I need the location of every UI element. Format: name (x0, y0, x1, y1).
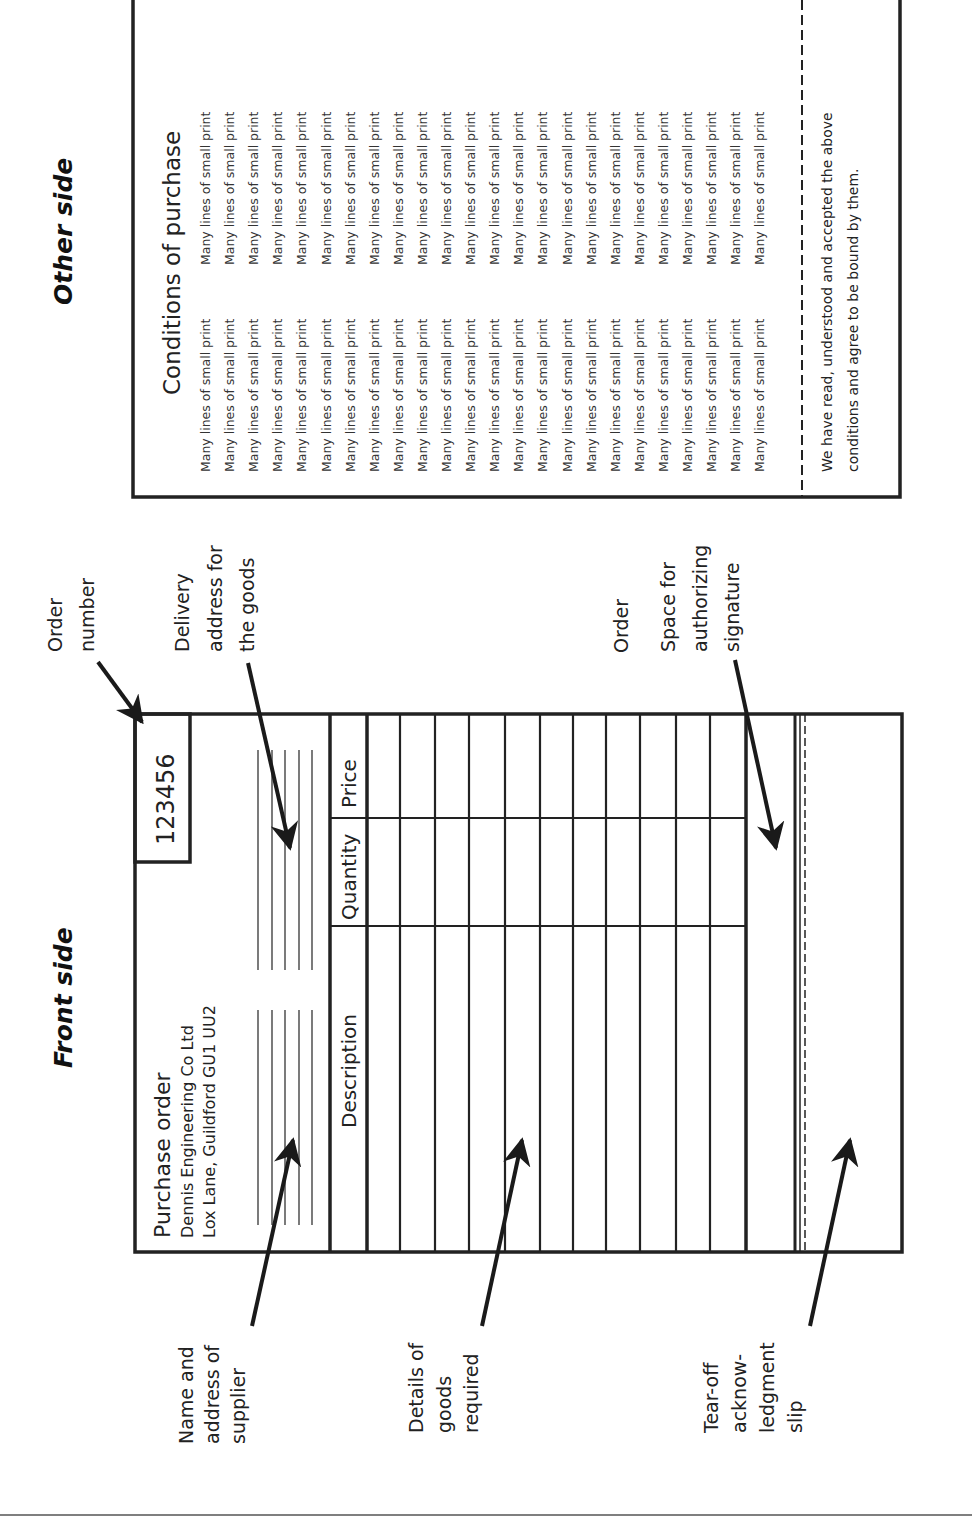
callout-delivery-3: the goods (236, 558, 258, 653)
acceptance-line-2: conditions and agree to be bound by them… (845, 168, 861, 472)
small-print-line: Many lines of small print (343, 318, 358, 472)
callout-supplier-3: supplier (227, 1368, 249, 1444)
svg-text:Order: Order (610, 599, 632, 653)
column-header-quantity: Quantity (337, 833, 361, 920)
small-print-line: Many lines of small print (294, 318, 309, 472)
front-side-form: 123456 Purchase order Dennis Engineering… (135, 714, 902, 1252)
small-print-line: Many lines of small print (704, 111, 719, 265)
small-print-line: Many lines of small print (584, 318, 599, 472)
small-print-block: Many lines of small printMany lines of s… (198, 111, 767, 472)
small-print-line: Many lines of small print (415, 111, 430, 265)
callout-goods-2: goods (433, 1376, 455, 1433)
small-print-line: Many lines of small print (487, 318, 502, 472)
supplier-address: Lox Lane, Guildford GU1 UU2 (200, 1005, 219, 1238)
arrow-order-number (98, 662, 142, 722)
small-print-line: Many lines of small print (728, 318, 743, 472)
column-header-description: Description (337, 1014, 361, 1128)
conditions-heading: Conditions of purchase (159, 131, 185, 395)
callout-delivery-2: address for (204, 545, 226, 652)
small-print-line: Many lines of small print (270, 318, 285, 472)
small-print-line: Many lines of small print (535, 111, 550, 265)
small-print-line: Many lines of small print (656, 318, 671, 472)
small-print-line: Many lines of small print (198, 111, 213, 265)
small-print-line: Many lines of small print (608, 318, 623, 472)
callout-order-number: Order (610, 599, 632, 653)
small-print-line: Many lines of small print (656, 111, 671, 265)
table-rows (400, 714, 710, 1252)
small-print-line: Many lines of small print (608, 111, 623, 265)
small-print-line: Many lines of small print (246, 318, 261, 472)
callout-goods-1: Details of (405, 1341, 427, 1433)
small-print-line: Many lines of small print (704, 318, 719, 472)
small-print-line: Many lines of small print (560, 318, 575, 472)
arrow-signature (735, 660, 776, 848)
small-print-line: Many lines of small print (632, 111, 647, 265)
other-side-form: Conditions of purchase Many lines of sma… (133, 0, 900, 497)
callout-tearoff-4: slip (784, 1400, 806, 1433)
supplier-name: Dennis Engineering Co Ltd (178, 1025, 197, 1238)
callout-tearoff-1: Tear-off (700, 1362, 722, 1434)
purchase-order-diagram: Front side Other side 123456 Purchase or… (0, 0, 972, 1532)
small-print-line: Many lines of small print (728, 111, 743, 265)
callout-goods-3: required (460, 1353, 482, 1433)
small-print-line: Many lines of small print (367, 318, 382, 472)
small-print-line: Many lines of small print (222, 111, 237, 265)
callout-tearoff-2: acknow- (728, 1354, 750, 1433)
arrow-goods (482, 1140, 522, 1326)
small-print-line: Many lines of small print (198, 318, 213, 472)
small-print-line: Many lines of small print (294, 111, 309, 265)
arrow-tearoff (810, 1140, 850, 1326)
small-print-line: Many lines of small print (270, 111, 285, 265)
small-print-line: Many lines of small print (367, 111, 382, 265)
small-print-line: Many lines of small print (415, 318, 430, 472)
form-heading: Purchase order (150, 1071, 175, 1238)
small-print-line: Many lines of small print (752, 111, 767, 265)
callout-supplier-1: Name and (175, 1346, 197, 1444)
small-print-line: Many lines of small print (319, 111, 334, 265)
small-print-line: Many lines of small print (752, 318, 767, 472)
small-print-line: Many lines of small print (463, 318, 478, 472)
other-side-title: Other side (49, 158, 78, 305)
small-print-line: Many lines of small print (632, 318, 647, 472)
column-header-price: Price (337, 759, 361, 808)
small-print-line: Many lines of small print (391, 318, 406, 472)
small-print-line: Many lines of small print (439, 318, 454, 472)
acceptance-line-1: We have read, understood and accepted th… (819, 112, 835, 472)
small-print-line: Many lines of small print (343, 111, 358, 265)
small-print-line: Many lines of small print (511, 318, 526, 472)
small-print-line: Many lines of small print (535, 318, 550, 472)
small-print-line: Many lines of small print (584, 111, 599, 265)
small-print-line: Many lines of small print (560, 111, 575, 265)
small-print-line: Many lines of small print (680, 318, 695, 472)
small-print-line: Many lines of small print (463, 111, 478, 265)
callout-signature-2: authorizing (689, 545, 711, 652)
callout-order-label-1: Order (44, 598, 66, 652)
arrow-delivery (248, 663, 290, 848)
callout-signature-1: Space for (657, 562, 679, 652)
small-print-line: Many lines of small print (680, 111, 695, 265)
small-print-line: Many lines of small print (391, 111, 406, 265)
callout-tearoff-3: ledgment (756, 1342, 778, 1433)
callout-delivery-1: Delivery (171, 573, 193, 652)
small-print-line: Many lines of small print (487, 111, 502, 265)
callout-supplier-2: address of (201, 1344, 223, 1444)
small-print-line: Many lines of small print (511, 111, 526, 265)
small-print-line: Many lines of small print (246, 111, 261, 265)
small-print-line: Many lines of small print (319, 318, 334, 472)
small-print-line: Many lines of small print (439, 111, 454, 265)
callout-signature-3: signature (721, 563, 743, 653)
callout-order-label-2: number (76, 578, 98, 652)
order-number: 123456 (152, 753, 180, 845)
small-print-line: Many lines of small print (222, 318, 237, 472)
front-side-title: Front side (49, 927, 78, 1068)
